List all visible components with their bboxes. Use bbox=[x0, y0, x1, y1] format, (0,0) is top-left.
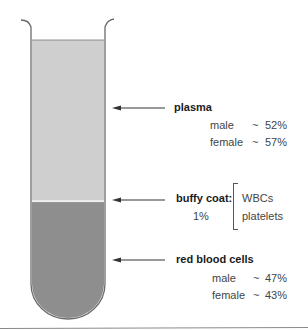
bottom-separator bbox=[0, 328, 308, 329]
red-blood-cells-arrow bbox=[112, 258, 165, 263]
buffy-coat-layer bbox=[32, 200, 104, 203]
red-blood-cells-layer bbox=[32, 203, 104, 319]
rbc-female-tilde: ~ bbox=[253, 289, 259, 302]
plasma-label: plasma bbox=[174, 101, 212, 114]
buffy-coat-component-wbcs: WBCs bbox=[242, 192, 273, 205]
buffy-coat-bracket bbox=[233, 183, 238, 230]
plasma-male-label: male bbox=[210, 119, 234, 132]
buffy-coat-label: buffy coat: bbox=[176, 192, 232, 205]
plasma-male-value: 52% bbox=[265, 119, 287, 132]
rbc-female-value: 43% bbox=[265, 289, 287, 302]
red-blood-cells-label: red blood cells bbox=[176, 253, 254, 266]
plasma-male-tilde: ~ bbox=[252, 119, 258, 132]
buffy-coat-percent: 1% bbox=[193, 210, 209, 223]
buffy-coat-arrow bbox=[112, 198, 165, 203]
plasma-arrow bbox=[112, 106, 165, 111]
test-tube-diagram bbox=[0, 0, 308, 330]
plasma-female-tilde: ~ bbox=[252, 136, 258, 149]
plasma-layer bbox=[32, 40, 104, 201]
plasma-female-label: female bbox=[210, 136, 243, 149]
plasma-female-value: 57% bbox=[265, 136, 287, 149]
buffy-coat-component-platelets: platelets bbox=[242, 210, 283, 223]
rbc-male-label: male bbox=[212, 272, 236, 285]
rbc-female-label: female bbox=[212, 289, 245, 302]
rbc-male-value: 47% bbox=[265, 272, 287, 285]
rbc-male-tilde: ~ bbox=[253, 272, 259, 285]
